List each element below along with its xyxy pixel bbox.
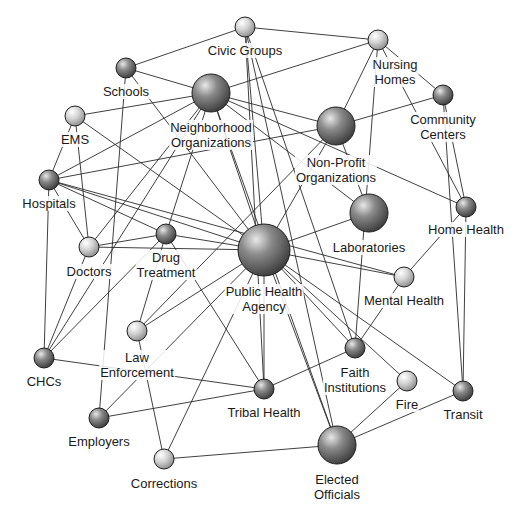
node-homehealth[interactable] (456, 197, 476, 217)
node-fire[interactable] (397, 371, 417, 391)
node-corrections[interactable] (154, 449, 174, 469)
node-label-laboratories: Laboratories (332, 240, 406, 255)
node-neighborhood[interactable] (192, 74, 230, 112)
node-pha[interactable] (238, 224, 290, 276)
node-label-fire: Fire (395, 397, 419, 412)
node-elected[interactable] (318, 426, 356, 464)
node-label-doctors: Doctors (66, 264, 113, 279)
node-law[interactable] (127, 321, 147, 341)
node-chcs[interactable] (34, 348, 54, 368)
node-laboratories[interactable] (350, 194, 388, 232)
node-label-law: Law Enforcement (99, 350, 175, 380)
node-label-nonprofit: Non-Profit Organizations (295, 155, 377, 185)
node-label-civic: Civic Groups (207, 43, 283, 58)
node-community[interactable] (433, 85, 453, 105)
edge-mental-faith (355, 277, 404, 348)
node-mental[interactable] (394, 267, 414, 287)
edge-elected-corrections (164, 445, 337, 459)
node-label-community: Community Centers (409, 112, 477, 142)
node-label-neighborhood: Neighborhood Organizations (169, 120, 253, 150)
node-label-faith: Faith Institutions (323, 365, 387, 395)
node-label-ems: EMS (60, 132, 90, 147)
node-label-elected: Elected Officials (313, 472, 361, 502)
node-tribal[interactable] (254, 379, 274, 399)
node-ems[interactable] (65, 106, 85, 126)
node-civic[interactable] (235, 17, 255, 37)
node-nursing[interactable] (368, 30, 388, 50)
node-employers[interactable] (89, 408, 109, 428)
node-transit[interactable] (453, 381, 473, 401)
node-label-homehealth: Home Health (427, 222, 505, 237)
node-hospitals[interactable] (39, 170, 59, 190)
node-label-transit: Transit (442, 407, 483, 422)
node-schools[interactable] (116, 58, 136, 78)
edge-homehealth-mental (404, 207, 466, 277)
node-drug[interactable] (156, 224, 176, 244)
edge-hospitals-mental (49, 180, 404, 277)
edge-neighborhood-drug (166, 93, 211, 234)
edge-neighborhood-doctors (89, 93, 211, 247)
node-label-mental: Mental Health (363, 293, 445, 308)
node-label-chcs: CHCs (26, 374, 63, 389)
node-doctors[interactable] (79, 237, 99, 257)
node-label-drug: Drug Treatment (136, 250, 197, 280)
node-label-tribal: Tribal Health (226, 405, 301, 420)
edge-doctors-drug (89, 234, 166, 247)
node-label-corrections: Corrections (130, 476, 198, 491)
node-label-schools: Schools (102, 84, 150, 99)
network-diagram: Civic GroupsNursing HomesSchoolsNeighbor… (0, 0, 527, 514)
edge-pha-corrections (164, 250, 264, 459)
node-nonprofit[interactable] (317, 107, 355, 145)
edge-civic-nursing (245, 27, 378, 40)
node-label-nursing: Nursing Homes (372, 57, 419, 87)
node-label-hospitals: Hospitals (21, 196, 76, 211)
edge-hospitals-pha (49, 180, 264, 250)
edge-pha-fire (264, 250, 407, 381)
node-faith[interactable] (345, 338, 365, 358)
node-label-pha: Public Health Agency (225, 284, 304, 314)
node-label-employers: Employers (67, 434, 130, 449)
